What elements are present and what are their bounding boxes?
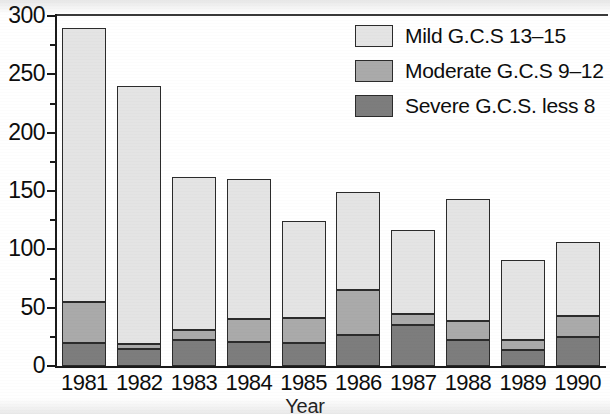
bar-segment[interactable] — [227, 319, 271, 341]
bar-segment[interactable] — [172, 177, 216, 330]
bar-segment[interactable] — [446, 199, 490, 320]
bar-group[interactable] — [556, 242, 600, 366]
y-axis-major-tick — [47, 73, 56, 75]
bar-segment[interactable] — [117, 86, 161, 344]
y-axis-tick-label: 0 — [0, 354, 45, 377]
legend-swatch — [355, 95, 393, 117]
bar-segment[interactable] — [62, 28, 106, 302]
bar-segment[interactable] — [391, 314, 435, 326]
x-axis-title: Year — [0, 396, 610, 414]
x-axis-tick-label: 1984 — [220, 371, 278, 395]
bar-group[interactable] — [62, 28, 106, 366]
bar-group[interactable] — [336, 192, 380, 366]
x-axis-tick-label: 1986 — [329, 371, 387, 395]
x-axis-tick-label: 1990 — [549, 371, 607, 395]
bar-group[interactable] — [391, 230, 435, 367]
bar-segment[interactable] — [227, 342, 271, 367]
y-axis-major-tick — [47, 307, 56, 309]
legend-label: Mild G.C.S 13–15 — [405, 25, 566, 47]
bar-segment[interactable] — [282, 343, 326, 366]
bar-group[interactable] — [446, 199, 490, 366]
bar-segment[interactable] — [556, 337, 600, 366]
legend-label: Moderate G.C.S 9–12 — [405, 60, 604, 82]
y-axis-major-tick — [47, 15, 56, 17]
y-axis-tick-label: 250 — [0, 62, 45, 85]
legend-swatch — [355, 60, 393, 82]
bar-segment[interactable] — [501, 350, 545, 366]
y-axis-major-tick — [47, 248, 56, 250]
bar-group[interactable] — [501, 260, 545, 366]
bar-segment[interactable] — [62, 302, 106, 343]
bar-segment[interactable] — [556, 242, 600, 316]
y-axis-minor-tick — [50, 278, 56, 280]
x-axis-tick-label: 1983 — [165, 371, 223, 395]
bar-segment[interactable] — [282, 318, 326, 343]
bar-segment[interactable] — [446, 321, 490, 341]
x-axis-tick-label: 1982 — [110, 371, 168, 395]
bar-group[interactable] — [172, 177, 216, 366]
bar-group[interactable] — [227, 179, 271, 366]
legend-label: Severe G.C.S. less 8 — [405, 95, 595, 117]
x-axis-tick-label: 1985 — [275, 371, 333, 395]
y-axis-minor-tick — [50, 103, 56, 105]
bar-segment[interactable] — [282, 221, 326, 318]
bar-chart-figure: 050100150200250300 198119821983198419851… — [0, 0, 610, 414]
bar-group[interactable] — [282, 221, 326, 366]
bar-segment[interactable] — [391, 325, 435, 366]
legend-item[interactable]: Moderate G.C.S 9–12 — [355, 56, 604, 86]
bar-segment[interactable] — [117, 344, 161, 349]
x-axis-tick-label: 1989 — [494, 371, 552, 395]
y-axis-tick-label: 300 — [0, 4, 45, 27]
x-axis-tick-label: 1988 — [439, 371, 497, 395]
y-axis-major-tick — [47, 190, 56, 192]
y-axis-minor-tick — [50, 44, 56, 46]
bar-segment[interactable] — [172, 330, 216, 341]
y-axis-minor-tick — [50, 336, 56, 338]
bar-segment[interactable] — [391, 230, 435, 314]
y-axis-minor-tick — [50, 219, 56, 221]
x-axis-tick-label: 1987 — [384, 371, 442, 395]
scan-edge-shadow-top — [0, 0, 610, 14]
bar-segment[interactable] — [336, 335, 380, 367]
legend-item[interactable]: Severe G.C.S. less 8 — [355, 91, 604, 121]
y-axis-tick-label: 50 — [0, 296, 45, 319]
bar-segment[interactable] — [227, 179, 271, 319]
bar-segment[interactable] — [62, 343, 106, 366]
x-axis-tick-label: 1981 — [55, 371, 113, 395]
bar-segment[interactable] — [117, 349, 161, 367]
bar-segment[interactable] — [446, 340, 490, 366]
legend-swatch — [355, 25, 393, 47]
bar-segment[interactable] — [556, 316, 600, 337]
x-axis-line — [55, 366, 606, 368]
bar-segment[interactable] — [172, 340, 216, 366]
bar-segment[interactable] — [501, 340, 545, 349]
y-axis-tick-label: 100 — [0, 237, 45, 260]
bar-segment[interactable] — [501, 260, 545, 341]
y-axis-minor-tick — [50, 161, 56, 163]
bar-segment[interactable] — [336, 290, 380, 334]
y-axis-major-tick — [47, 365, 56, 367]
bar-segment[interactable] — [336, 192, 380, 290]
chart-legend: Mild G.C.S 13–15Moderate G.C.S 9–12Sever… — [355, 21, 604, 126]
legend-item[interactable]: Mild G.C.S 13–15 — [355, 21, 604, 51]
bar-group[interactable] — [117, 86, 161, 366]
y-axis-major-tick — [47, 132, 56, 134]
y-axis-tick-label: 150 — [0, 179, 45, 202]
y-axis-tick-label: 200 — [0, 121, 45, 144]
